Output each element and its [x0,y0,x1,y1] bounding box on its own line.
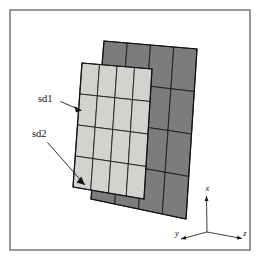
mesh-cell [109,161,129,196]
mesh-cell [115,66,135,100]
mesh-cell [80,63,100,96]
mesh-cell [165,131,191,177]
mesh-cell [171,47,197,92]
callout-label-sd2: sd2 [32,128,47,139]
mesh-cell [93,127,113,161]
fine-overlay-mesh [73,63,152,199]
mesh-cell [111,130,131,164]
axis-line-x [207,196,208,232]
mesh-cell [113,98,133,132]
axis-label-z: z [242,228,247,238]
mesh-cell [162,172,189,219]
axis-label-y: y [174,228,179,238]
mesh-cell [73,156,93,190]
mesh-cell [130,100,150,134]
callout-label-sd1: sd1 [38,93,53,104]
mesh-cell [97,65,117,98]
mesh-cell [95,96,115,130]
mesh-cell [132,68,152,102]
mesh-cell [91,159,111,193]
mesh-overlap-figure: sd1sd2 xyz [0,0,264,264]
mesh-cell [75,125,95,159]
mesh-cell [126,164,146,199]
mesh-cell [128,132,148,167]
figure-root: sd1sd2 xyz [0,0,264,264]
mesh-cell [168,89,194,134]
axis-label-x: x [205,183,210,193]
